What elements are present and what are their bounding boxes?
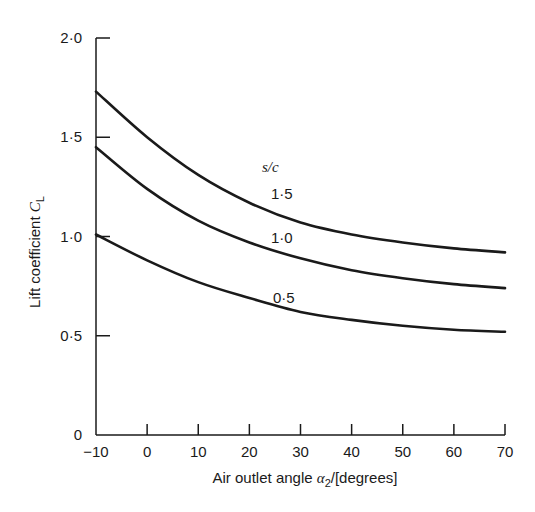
curve-sc-1-5 [96,92,505,253]
y-tick-label: 0·5 [60,327,82,344]
x-axis-title: Air outlet angle α2/[degrees] [213,469,398,489]
curves [96,92,505,332]
legend-title: s/c [262,159,279,175]
y-tick-label: 1·0 [60,228,82,245]
x-tick-label: 10 [190,443,207,460]
y-axis-title: Lift coefficient CL [26,196,46,308]
x-tick-label: 30 [292,443,309,460]
x-tick-label: 70 [497,443,514,460]
x-tick-label: 40 [343,443,360,460]
curve-label-0-5: 0·5 [273,289,295,306]
y-tick-label: 2·0 [60,29,82,46]
x-ticks: −10010203040506070 [83,424,513,460]
y-tick-label: 1·5 [60,128,82,145]
curve-sc-1-0 [96,147,505,288]
x-tick-label: 20 [241,443,258,460]
x-tick-label: 0 [143,443,151,460]
chart-canvas: 00·51·01·52·0 −10010203040506070 s/c 1·5… [0,0,535,512]
axes [96,38,505,435]
x-tick-label: 50 [394,443,411,460]
x-tick-label: 60 [446,443,463,460]
y-ticks: 00·51·01·52·0 [60,29,110,443]
x-tick-label: −10 [83,443,108,460]
curve-label-1-5: 1·5 [271,185,293,202]
curve-label-1-0: 1·0 [271,229,293,246]
y-tick-label: 0 [74,426,82,443]
